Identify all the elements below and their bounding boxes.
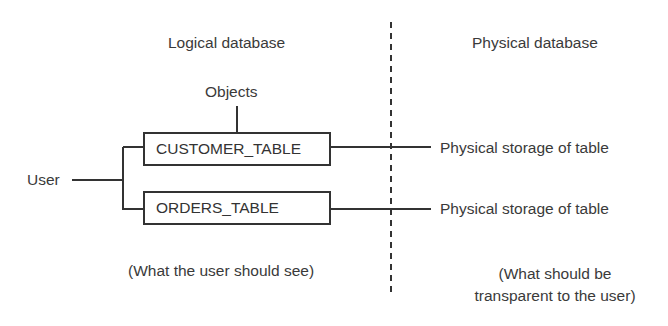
logical-caption: (What the user should see) bbox=[128, 262, 314, 280]
objects-label: Objects bbox=[205, 83, 258, 101]
customer-physical-storage-label: Physical storage of table bbox=[440, 139, 609, 157]
customer-table-box: CUSTOMER_TABLE bbox=[143, 132, 331, 166]
physical-caption-line2: transparent to the user) bbox=[450, 287, 660, 305]
orders-table-box: ORDERS_TABLE bbox=[143, 191, 331, 225]
physical-database-heading: Physical database bbox=[472, 34, 598, 52]
logical-database-heading: Logical database bbox=[168, 34, 285, 52]
physical-caption-line1: (What should be bbox=[450, 265, 660, 283]
user-label: User bbox=[27, 171, 60, 189]
orders-physical-storage-label: Physical storage of table bbox=[440, 200, 609, 218]
